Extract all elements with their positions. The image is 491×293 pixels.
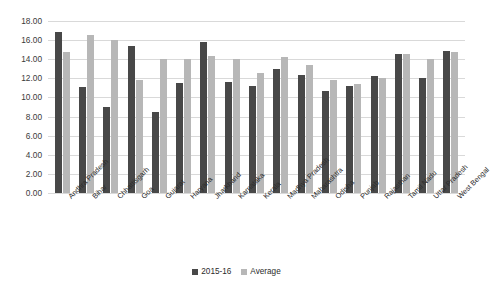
legend-item[interactable]: Average [241,268,280,276]
bar[interactable] [184,59,191,193]
bar-group [414,21,438,193]
bar[interactable] [273,69,280,193]
legend-label: Average [250,268,280,276]
legend-swatch-icon [241,269,247,275]
bar[interactable] [281,57,288,193]
bar[interactable] [111,40,118,193]
bar-group [342,21,366,193]
y-tick-label: 6.00 [2,132,42,140]
bar[interactable] [443,51,450,193]
y-tick-label: 12.00 [2,74,42,82]
x-axis-category-labels: Andhra PradeshBiharChhattisgarhGoaGujara… [48,195,465,257]
bar[interactable] [55,32,62,193]
bar[interactable] [208,56,215,193]
y-tick-label: 2.00 [2,170,42,178]
plot-area [48,21,465,193]
bar[interactable] [103,107,110,193]
chart-legend: 2015-16Average [0,268,473,276]
bar-group [50,21,74,193]
bar[interactable] [200,42,207,193]
bar-group [220,21,244,193]
legend-label: 2015-16 [201,268,231,276]
bar-group [269,21,293,193]
y-tick-label: 10.00 [2,93,42,101]
bar-group [196,21,220,193]
legend-swatch-icon [192,269,198,275]
gridline-0.00 [48,193,465,194]
bar-group [147,21,171,193]
bar-group [171,21,195,193]
bar[interactable] [354,84,361,193]
bar[interactable] [346,86,353,193]
bars-layer [48,21,465,193]
bar[interactable] [128,46,135,193]
bar-group [390,21,414,193]
y-tick-label: 18.00 [2,17,42,25]
bar[interactable] [160,59,167,193]
legend-item[interactable]: 2015-16 [192,268,231,276]
y-tick-label: 16.00 [2,36,42,44]
y-tick-label: 0.00 [2,189,42,197]
y-tick-label: 4.00 [2,151,42,159]
bar-group [244,21,268,193]
bar[interactable] [371,76,378,193]
bar[interactable] [63,52,70,193]
bar-group [366,21,390,193]
bar[interactable] [379,78,386,193]
y-tick-label: 14.00 [2,55,42,63]
y-tick-label: 8.00 [2,113,42,121]
bar[interactable] [395,54,402,194]
bar[interactable] [152,112,159,193]
